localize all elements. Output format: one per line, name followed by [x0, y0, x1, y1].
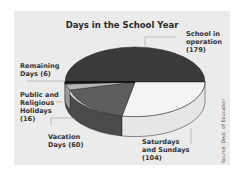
label-vacation-days: Vacation Days (60)	[48, 133, 83, 149]
source-note: Source: Dept. of Education	[221, 99, 226, 163]
slice-school-in-operation	[65, 47, 205, 82]
pie-top	[65, 47, 205, 117]
label-remaining-days: Remaining Days (6)	[20, 62, 60, 78]
label-saturdays-sundays: Saturdays and Sundays (104)	[142, 138, 190, 162]
label-school-in-operation: School in operation (179)	[186, 30, 222, 54]
pie-chart	[0, 0, 240, 176]
label-public-holidays: Public and Religious Holidays (16)	[20, 91, 59, 123]
